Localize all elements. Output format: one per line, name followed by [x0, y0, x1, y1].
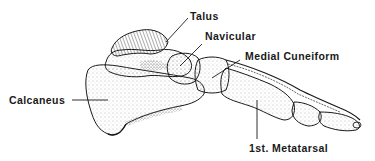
first-metatarsal-bone: [221, 68, 295, 120]
leader-line-talus: [166, 18, 188, 42]
foot-bones-illustration: [0, 0, 375, 161]
label-medial-cuneiform: Medial Cuneiform: [245, 51, 340, 62]
label-calcaneus: Calcaneus: [9, 95, 65, 106]
phalanges: [292, 102, 361, 131]
label-navicular: Navicular: [205, 31, 256, 42]
label-talus: Talus: [190, 11, 219, 22]
label-first-metatarsal: 1st. Metatarsal: [249, 143, 328, 154]
